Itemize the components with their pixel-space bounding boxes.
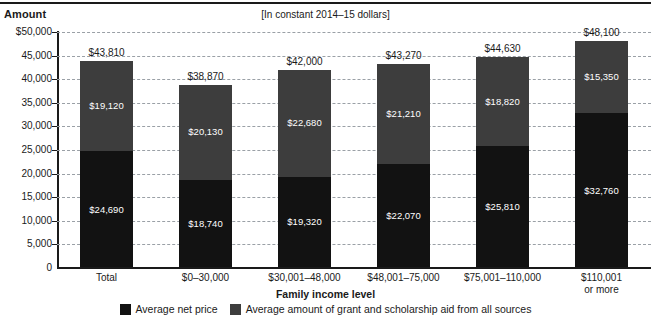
bar-segment-net-price[interactable]: $22,070: [377, 164, 430, 268]
y-axis-tick-labels: $50,00045,00040,00035,00030,00025,00020,…: [0, 32, 52, 268]
bar-segment-grant-aid[interactable]: $20,130: [179, 85, 232, 180]
y-tick-label: 35,000: [21, 98, 52, 108]
y-tick-label: 25,000: [21, 145, 52, 155]
x-category-label-line: Total: [57, 272, 156, 284]
bar-group[interactable]: $18,740$20,130$38,870: [179, 32, 232, 268]
y-tick-mark: [52, 56, 57, 57]
bar-value-label: $15,350: [575, 71, 628, 82]
y-tick-label: 10,000: [21, 216, 52, 226]
y-tick-label: 30,000: [21, 121, 52, 131]
chart-container: Amount [In constant 2014–15 dollars] $50…: [0, 0, 651, 321]
bar-group[interactable]: $24,690$19,120$43,810: [80, 32, 133, 268]
y-tick-mark: [52, 197, 57, 198]
y-tick-mark: [52, 32, 57, 33]
x-category-label-line: $110,001: [552, 272, 651, 284]
gridline: [57, 103, 651, 104]
bar-segment-net-price[interactable]: $19,320: [278, 177, 331, 268]
bar-value-label: $22,680: [278, 117, 331, 128]
x-category-label: $48,001–75,000: [354, 272, 453, 284]
y-tick-label: 15,000: [21, 192, 52, 202]
bar-segment-net-price[interactable]: $18,740: [179, 180, 232, 268]
legend-swatch-net-price: [120, 304, 131, 315]
y-tick-mark: [52, 126, 57, 127]
legend-label: Average net price: [136, 303, 218, 315]
bar-value-label: $19,120: [80, 100, 133, 111]
bar-segment-grant-aid[interactable]: $19,120: [80, 61, 133, 151]
bar-segment-grant-aid[interactable]: $21,210: [377, 64, 430, 164]
bar-value-label: $24,690: [80, 204, 133, 215]
bar-value-label: $18,820: [476, 96, 529, 107]
y-tick-label: 45,000: [21, 51, 52, 61]
y-tick-label: 20,000: [21, 169, 52, 179]
bar-group[interactable]: $19,320$22,680$42,000: [278, 32, 331, 268]
bar-value-label: $19,320: [278, 216, 331, 227]
y-tick-label: 5,000: [27, 239, 52, 249]
bar-segment-grant-aid[interactable]: $18,820: [476, 57, 529, 146]
x-category-label-line: $48,001–75,000: [354, 272, 453, 284]
y-tick-mark: [52, 103, 57, 104]
bar-segment-net-price[interactable]: $24,690: [80, 151, 133, 268]
gridline: [57, 221, 651, 222]
bar-segment-grant-aid[interactable]: $22,680: [278, 70, 331, 177]
bar-group[interactable]: $25,810$18,820$44,630: [476, 32, 529, 268]
x-category-label-line: $0–30,000: [156, 272, 255, 284]
x-category-label-line: $30,001–48,000: [255, 272, 354, 284]
bar-total-label: $43,810: [66, 47, 147, 58]
bar-total-label: $42,000: [264, 56, 345, 67]
bar-total-label: $44,630: [462, 43, 543, 54]
bar-value-label: $21,210: [377, 108, 430, 119]
bar-group[interactable]: $22,070$21,210$43,270: [377, 32, 430, 268]
x-category-label: $0–30,000: [156, 272, 255, 284]
x-category-label: Total: [57, 272, 156, 284]
legend-label: Average amount of grant and scholarship …: [246, 303, 532, 315]
bar-value-label: $20,130: [179, 126, 232, 137]
bar-group[interactable]: $32,760$15,350$48,100: [575, 32, 628, 268]
x-axis-line: [57, 267, 651, 269]
y-tick-mark: [52, 174, 57, 175]
y-tick-label: 40,000: [21, 74, 52, 84]
x-category-label: $75,001–110,000: [453, 272, 552, 284]
bar-value-label: $32,760: [575, 185, 628, 196]
legend-swatch-grant-aid: [230, 304, 241, 315]
y-tick-mark: [52, 150, 57, 151]
bar-value-label: $18,740: [179, 218, 232, 229]
bar-value-label: $22,070: [377, 210, 430, 221]
bar-segment-grant-aid[interactable]: $15,350: [575, 41, 628, 113]
top-divider-rule: [0, 2, 651, 4]
y-tick-mark: [52, 79, 57, 80]
bar-total-label: $38,870: [165, 71, 246, 82]
x-category-label-line: $75,001–110,000: [453, 272, 552, 284]
bar-segment-net-price[interactable]: $32,760: [575, 113, 628, 268]
y-tick-mark: [52, 221, 57, 222]
gridline: [57, 174, 651, 175]
bar-segment-net-price[interactable]: $25,810: [476, 146, 529, 268]
plot-area: $24,690$19,120$43,810$18,740$20,130$38,8…: [57, 32, 651, 268]
gridline: [57, 244, 651, 245]
chart-units-note: [In constant 2014–15 dollars]: [0, 9, 651, 20]
gridline: [57, 126, 651, 127]
y-tick-mark: [52, 244, 57, 245]
gridline: [57, 150, 651, 151]
x-category-label: $30,001–48,000: [255, 272, 354, 284]
x-axis-title: Family income level: [0, 288, 651, 300]
y-tick-label: 0: [46, 263, 52, 273]
chart-legend: Average net priceAverage amount of grant…: [0, 303, 651, 315]
bar-value-label: $25,810: [476, 201, 529, 212]
legend-item[interactable]: Average amount of grant and scholarship …: [230, 303, 532, 315]
gridline: [57, 79, 651, 80]
legend-item[interactable]: Average net price: [120, 303, 218, 315]
gridline: [57, 197, 651, 198]
y-tick-label: $50,000: [16, 27, 52, 37]
bar-total-label: $48,100: [561, 27, 642, 38]
bar-total-label: $43,270: [363, 50, 444, 61]
